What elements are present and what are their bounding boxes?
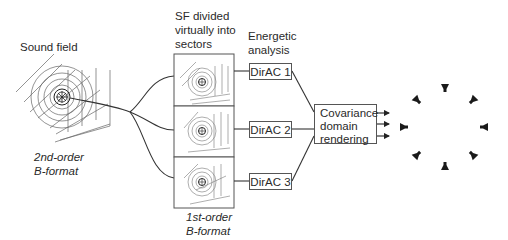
second-order-label: 2nd-order B-format — [34, 150, 84, 178]
speaker-icon — [480, 123, 488, 131]
second-order-line-2: B-format — [34, 164, 84, 178]
first-order-label: 1st-order B-format — [186, 210, 232, 238]
energetic-line-1: Energetic — [248, 29, 297, 43]
speaker-icon — [441, 84, 449, 92]
sf-divided-line-1: SF divided — [175, 9, 236, 23]
speaker-icon — [412, 95, 423, 106]
speaker-icon — [441, 162, 449, 170]
dirac-to-renderer-lines — [292, 71, 314, 181]
dirac-3-block: DirAC 3 — [249, 173, 292, 190]
second-order-line-1: 2nd-order — [34, 150, 84, 164]
dirac-1-block: DirAC 1 — [249, 63, 292, 80]
energetic-analysis-label: Energetic analysis — [248, 29, 297, 57]
energetic-line-2: analysis — [248, 43, 297, 57]
dirac-2-block: DirAC 2 — [249, 121, 292, 138]
first-order-line-2: B-format — [186, 224, 232, 238]
speaker-icon — [467, 149, 478, 160]
loudspeaker-ring — [400, 84, 488, 170]
speaker-icon — [467, 95, 478, 106]
sf-divided-line-2: virtually into — [175, 23, 236, 37]
sf-divided-label: SF divided virtually into sectors — [175, 9, 236, 51]
renderer-line-3: rendering — [320, 133, 376, 146]
renderer-line-2: domain — [320, 120, 376, 133]
output-arrows — [377, 113, 389, 136]
sound-field-illustration — [16, 54, 110, 142]
covariance-renderer-block: Covariance domain rendering — [314, 104, 377, 144]
sound-field-label: Sound field — [20, 40, 78, 54]
sector-to-dirac-lines — [234, 71, 249, 181]
sf-divided-line-3: sectors — [175, 37, 236, 51]
renderer-line-1: Covariance — [320, 107, 376, 120]
first-order-line-1: 1st-order — [186, 210, 232, 224]
speaker-icon — [400, 123, 408, 131]
dirac-diagram: Sound field 2nd-order B-format SF divide… — [0, 0, 508, 240]
speaker-icon — [412, 149, 423, 160]
